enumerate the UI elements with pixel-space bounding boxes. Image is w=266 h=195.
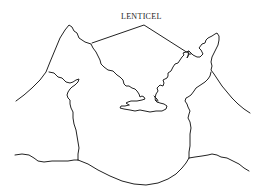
- lenticel-diagram: [0, 0, 266, 195]
- right-epidermis: [189, 33, 250, 113]
- lenticel-right-wall: [155, 51, 191, 102]
- lenticel-pocket: [120, 100, 167, 112]
- leader-line-left: [92, 25, 188, 53]
- left-epidermis: [16, 25, 145, 105]
- right-ground-line: [189, 154, 249, 171]
- left-cork-boundary: [49, 72, 79, 160]
- left-ground-line: [15, 154, 78, 162]
- base-curve: [78, 158, 189, 185]
- right-cork-boundary: [185, 72, 211, 158]
